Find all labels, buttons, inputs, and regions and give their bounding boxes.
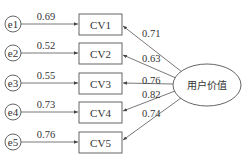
latent-label: 用户价值 <box>187 79 227 91</box>
error-label: e4 <box>8 106 19 118</box>
loading-value: 0.63 <box>142 53 160 64</box>
loading-value: 0.82 <box>142 89 160 100</box>
latent-node: 用户价值 <box>173 64 241 106</box>
indicator-nodes: CV1 CV2 CV3 CV4 CV5 <box>79 14 122 153</box>
error-weight: 0.73 <box>37 99 55 110</box>
indicator-label: CV4 <box>90 107 111 119</box>
error-weight: 0.55 <box>37 70 55 81</box>
error-weights: 0.69 0.52 0.55 0.73 0.76 <box>37 11 55 140</box>
error-nodes: e1 e2 e3 e4 e5 <box>5 16 21 150</box>
loading-value: 0.74 <box>142 108 161 119</box>
error-label: e5 <box>8 136 19 148</box>
indicator-label: CV1 <box>90 19 111 31</box>
loading-labels: 0.71 0.63 0.76 0.82 0.74 <box>142 28 161 119</box>
error-label: e2 <box>8 47 18 59</box>
error-weight: 0.69 <box>37 11 55 22</box>
sem-diagram: e1 e2 e3 e4 e5 0.69 0.52 0.55 0.73 0.76 … <box>0 0 252 165</box>
error-label: e1 <box>8 18 18 30</box>
error-label: e3 <box>8 77 19 89</box>
edge-latent-cv5 <box>123 98 181 140</box>
error-weight: 0.76 <box>37 129 55 140</box>
indicator-label: CV5 <box>90 137 111 149</box>
indicator-label: CV2 <box>90 48 111 60</box>
error-weight: 0.52 <box>37 40 55 51</box>
loading-value: 0.76 <box>142 75 160 86</box>
loading-value: 0.71 <box>142 28 160 39</box>
indicator-label: CV3 <box>90 78 111 90</box>
